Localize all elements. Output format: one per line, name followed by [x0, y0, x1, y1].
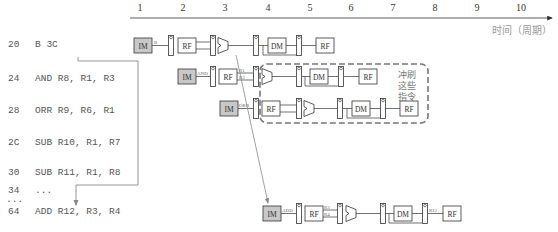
pipeline-row-b: IM B RF DM RF — [134, 36, 334, 56]
instruction: B 3C — [35, 39, 58, 50]
pipeline-row-and: IM AND RF R1 R3 DM RF — [178, 67, 377, 87]
flush-note-line2: 这些 — [398, 80, 416, 91]
dm-block: DM — [313, 73, 325, 82]
instruction: ... — [35, 185, 52, 196]
src2-label: R3 — [239, 75, 245, 80]
timeline: 1 2 3 4 5 6 7 8 9 10 时间（周期） — [130, 2, 552, 36]
cycle-label: 7 — [391, 2, 396, 13]
instruction: ADD R12, R3, R4 — [35, 206, 121, 217]
instruction: AND R8, R1, R3 — [35, 73, 115, 84]
branch-resolve-arrow — [236, 55, 268, 203]
pipeline-row-orr: IM ORR RF DM RF — [220, 99, 418, 119]
op-label: B — [154, 40, 158, 45]
address: 64 — [8, 206, 20, 217]
src1-label: R3 — [324, 205, 330, 210]
dm-block: DM — [355, 105, 367, 114]
program-listing: 20 B 3C 24 AND R8, R1, R3 28 ORR R9, R6,… — [6, 39, 121, 217]
flush-note-line1: 冲刷 — [398, 69, 416, 80]
cycle-label: 5 — [308, 2, 313, 13]
address: 30 — [8, 167, 20, 178]
address: 28 — [8, 105, 20, 116]
flush-note-line3: 指令 — [398, 91, 416, 102]
address: ... — [6, 194, 23, 205]
cycle-label: 3 — [223, 2, 228, 13]
address: 2C — [8, 137, 20, 148]
instruction: SUB R10, R1, R7 — [35, 137, 121, 148]
cycle-label: 6 — [349, 2, 354, 13]
cycle-label: 2 — [181, 2, 186, 13]
op-label: ORR — [239, 103, 250, 108]
im-block: IM — [182, 73, 191, 82]
time-axis-label: 时间（周期） — [492, 24, 552, 36]
src2-label: R4 — [324, 212, 330, 217]
cycle-label: 9 — [475, 2, 480, 13]
im-block: IM — [267, 210, 276, 219]
rf-block: RF — [182, 42, 191, 51]
dm-block: DM — [271, 42, 283, 51]
dm-block: DM — [397, 210, 409, 219]
dest-label: R12 — [429, 208, 438, 213]
pipeline-row-add: IM ADD RF R3 R4 DM R12 RF — [263, 204, 461, 224]
rf-writeback-block: RF — [363, 73, 372, 82]
address: 20 — [8, 39, 20, 50]
address: 24 — [8, 73, 20, 84]
rf-writeback-block: RF — [447, 210, 456, 219]
cycle-label: 1 — [138, 2, 143, 13]
pipeline-diagram: 1 2 3 4 5 6 7 8 9 10 时间（周期） 20 B 3C 24 A… — [0, 0, 558, 232]
op-label: AND — [197, 71, 208, 76]
rf-block: RF — [223, 73, 232, 82]
rf-block: RF — [309, 210, 318, 219]
rf-writeback-block: RF — [320, 42, 329, 51]
cycle-label: 4 — [266, 2, 271, 13]
instruction: SUB R11, R1, R8 — [35, 167, 121, 178]
instruction: ORR R9, R6, R1 — [35, 105, 115, 116]
op-label: ADD — [282, 208, 293, 213]
im-block: IM — [138, 42, 147, 51]
rf-writeback-block: RF — [404, 105, 413, 114]
im-block: IM — [224, 105, 233, 114]
rf-block: RF — [266, 105, 275, 114]
cycle-label: 8 — [433, 2, 438, 13]
cycle-label: 10 — [516, 2, 526, 13]
